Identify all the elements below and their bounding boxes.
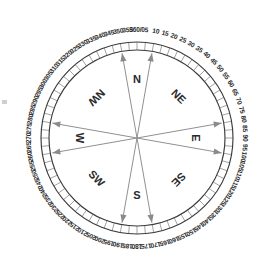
degree-label-90: 90: [242, 135, 249, 142]
degree-label-80: 80: [240, 115, 248, 124]
degree-label-65: 65: [231, 87, 240, 97]
degree-label-355: 355: [122, 26, 134, 34]
degree-label-75: 75: [238, 106, 247, 115]
cardinal-label-east: E: [190, 134, 202, 141]
cardinal-label-north: N: [133, 73, 141, 85]
scan-artifact-speck: [2, 100, 7, 104]
degree-label-10: 10: [152, 27, 161, 35]
degree-label-85: 85: [242, 125, 250, 133]
degree-label-25: 25: [178, 35, 188, 44]
degree-label-5: 5: [144, 26, 149, 33]
degree-label-15: 15: [161, 29, 170, 38]
degree-label-20: 20: [170, 31, 179, 40]
cardinal-label-west: W: [74, 133, 86, 144]
cardinal-label-south: S: [133, 189, 140, 201]
degree-label-70: 70: [235, 96, 244, 105]
degree-label-60: 60: [226, 79, 236, 89]
compass-svg-canvas: 360/051015202530354045505560657075808590…: [0, 0, 275, 277]
compass-rose-diagram: 360/051015202530354045505560657075808590…: [0, 0, 275, 277]
